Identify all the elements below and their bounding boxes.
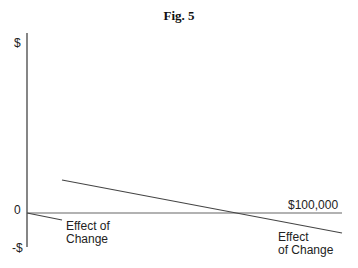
left-effect-label: Effect of Change bbox=[66, 220, 110, 246]
diagram-canvas bbox=[0, 0, 358, 268]
y-axis-bottom-label: -$ bbox=[12, 242, 23, 255]
y-axis-top-label: $ bbox=[14, 37, 21, 50]
y-axis-zero-label: 0 bbox=[14, 204, 21, 217]
left-effect-line bbox=[27, 213, 62, 220]
right-effect-label: Effect of Change bbox=[278, 231, 333, 257]
baseline-label: $100,000 bbox=[288, 199, 338, 212]
